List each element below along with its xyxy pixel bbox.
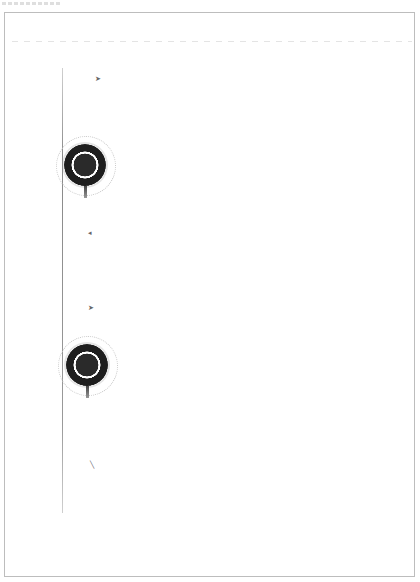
top-rule-line <box>12 41 412 42</box>
official-seal-icon <box>64 144 106 186</box>
margin-mark-icon: ➤ <box>88 305 92 309</box>
page-frame <box>4 12 415 577</box>
margin-mark-icon: ◂ <box>88 230 92 234</box>
official-seal-icon <box>66 344 108 386</box>
margin-mark-icon: ➤ <box>95 76 99 80</box>
binding-margin-line <box>62 68 63 513</box>
header-text-illegible <box>2 0 62 8</box>
margin-mark-icon: ╲ <box>90 462 94 466</box>
